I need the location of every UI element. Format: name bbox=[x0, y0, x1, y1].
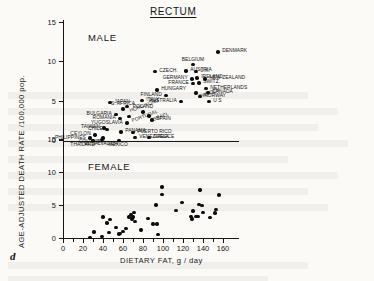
x-tick-10 bbox=[73, 239, 74, 242]
x-tick-70 bbox=[133, 239, 134, 242]
x-tick-40 bbox=[103, 239, 104, 243]
x-tick-label-60: 60 bbox=[119, 244, 127, 253]
data-point-female bbox=[139, 228, 142, 231]
data-point-female bbox=[156, 233, 159, 236]
y-tick-label-0-1: 5 bbox=[52, 97, 56, 106]
country-label: CEYLON bbox=[70, 132, 90, 137]
y-axis-line-0 bbox=[63, 20, 64, 141]
data-point-male bbox=[147, 136, 150, 139]
x-tick-label-40: 40 bbox=[99, 244, 107, 253]
country-label: NEW ZEALAND bbox=[209, 76, 245, 81]
country-label: FRANCE bbox=[168, 81, 188, 86]
x-tick-150 bbox=[213, 239, 214, 242]
y-tick-label-1-0: 0 bbox=[52, 234, 56, 243]
x-tick-label-120: 120 bbox=[177, 244, 190, 253]
data-point-male bbox=[204, 87, 207, 90]
data-point-male bbox=[125, 121, 128, 124]
y-tick-label-0-3: 15 bbox=[48, 18, 56, 27]
x-tick-60 bbox=[123, 239, 124, 243]
x-tick-100 bbox=[163, 239, 164, 243]
data-point-female bbox=[92, 230, 95, 233]
data-point-female bbox=[121, 230, 124, 233]
x-tick-110 bbox=[173, 239, 174, 242]
country-label: HUNGARY bbox=[161, 87, 186, 92]
x-tick-20 bbox=[83, 239, 84, 243]
data-point-female bbox=[114, 226, 117, 229]
data-point-male bbox=[190, 77, 193, 80]
x-tick-90 bbox=[153, 239, 154, 242]
x-tick-160 bbox=[223, 239, 224, 243]
data-point-male bbox=[153, 70, 156, 73]
data-point-female bbox=[200, 204, 203, 207]
country-label: CANADA bbox=[212, 90, 233, 95]
country-label: COLOMBIA bbox=[79, 140, 105, 145]
data-point-male bbox=[203, 77, 206, 80]
country-label: SPAIN bbox=[156, 117, 171, 122]
data-point-male bbox=[195, 76, 198, 79]
panel-label-male: MALE bbox=[88, 32, 117, 43]
y-axis-label: AGE-ADJUSTED DEATH RATE /100,000 pop. bbox=[17, 75, 26, 248]
data-point-male bbox=[131, 131, 134, 134]
x-tick-80 bbox=[143, 239, 144, 243]
y-tick-1-2 bbox=[59, 172, 63, 173]
country-label: U S bbox=[213, 99, 221, 104]
country-label: MEXICO bbox=[108, 143, 128, 148]
x-tick-label-140: 140 bbox=[197, 244, 210, 253]
data-point-female bbox=[196, 215, 199, 218]
data-point-female bbox=[132, 211, 135, 214]
chart-title: RECTUM bbox=[150, 6, 196, 17]
x-axis-label: DIETARY FAT, g / day bbox=[120, 256, 203, 265]
x-tick-label-80: 80 bbox=[139, 244, 147, 253]
data-point-female bbox=[146, 217, 149, 220]
data-point-female bbox=[201, 211, 204, 214]
y-tick-0-2 bbox=[59, 61, 63, 62]
x-tick-130 bbox=[193, 239, 194, 242]
data-point-male bbox=[164, 94, 167, 97]
country-label: FINLAND bbox=[140, 93, 161, 98]
data-point-female bbox=[160, 193, 163, 196]
y-axis-line-1 bbox=[63, 137, 64, 239]
data-point-male bbox=[179, 100, 182, 103]
figure-letter: d bbox=[10, 250, 16, 262]
country-label: S. AFRICA bbox=[111, 102, 135, 107]
data-point-male bbox=[140, 99, 143, 102]
data-point-female bbox=[174, 209, 177, 212]
data-point-female bbox=[101, 215, 104, 218]
x-tick-label-100: 100 bbox=[157, 244, 170, 253]
data-point-male bbox=[206, 91, 209, 94]
data-point-male bbox=[105, 128, 108, 131]
x-tick-label-0: 0 bbox=[61, 244, 65, 253]
data-point-female bbox=[151, 222, 154, 225]
data-point-female bbox=[105, 221, 108, 224]
y-tick-0-3 bbox=[59, 22, 63, 23]
data-point-female bbox=[180, 201, 183, 204]
y-tick-label-1-2: 10 bbox=[48, 168, 56, 177]
y-tick-label-1-1: 5 bbox=[52, 201, 56, 210]
data-point-male bbox=[198, 95, 201, 98]
data-point-female bbox=[108, 218, 111, 221]
x-tick-label-20: 20 bbox=[79, 244, 87, 253]
data-point-male bbox=[197, 81, 200, 84]
country-label: CHILE bbox=[88, 127, 103, 132]
x-tick-140 bbox=[203, 239, 204, 243]
data-point-female bbox=[214, 208, 217, 211]
country-label: AUSTRALIA bbox=[149, 99, 177, 104]
data-point-male bbox=[216, 50, 219, 53]
data-point-female bbox=[133, 220, 136, 223]
data-point-female bbox=[217, 193, 220, 196]
data-point-female bbox=[124, 227, 127, 230]
data-point-female bbox=[154, 203, 157, 206]
x-tick-50 bbox=[113, 239, 114, 242]
data-point-male bbox=[150, 118, 153, 121]
data-point-male bbox=[133, 136, 136, 139]
country-label: CZECH. bbox=[159, 69, 178, 74]
country-label: GREECE bbox=[153, 135, 174, 140]
data-point-female bbox=[131, 215, 134, 218]
data-point-male bbox=[93, 133, 96, 136]
data-point-male bbox=[207, 100, 210, 103]
x-tick-label-160: 160 bbox=[217, 244, 230, 253]
country-label: BELGIUM bbox=[182, 58, 204, 63]
data-point-female bbox=[213, 211, 216, 214]
data-point-female bbox=[191, 209, 194, 212]
x-tick-120 bbox=[183, 239, 184, 243]
